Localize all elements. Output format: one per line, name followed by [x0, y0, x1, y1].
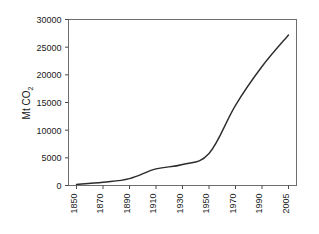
co2-emissions-line-chart: 050001000015000200002500030000 185018701…: [0, 0, 319, 234]
y-axis-tick-label: 5000: [41, 153, 61, 163]
y-axis-tick-label: 30000: [36, 15, 61, 25]
x-axis-tick-label: 2005: [281, 194, 291, 214]
x-axis-label-group: 185018701890191019301950197019902005: [69, 194, 291, 214]
x-axis-tick-label: 1950: [201, 194, 211, 214]
x-axis-tick-label: 1870: [95, 194, 105, 214]
y-axis-tick-label: 20000: [36, 70, 61, 80]
x-axis-tick-label: 1990: [254, 194, 264, 214]
x-axis-tick-label: 1890: [122, 194, 132, 214]
y-axis-tick-label: 15000: [36, 98, 61, 108]
y-axis-tick-label: 10000: [36, 126, 61, 136]
plot-area-frame: [69, 20, 297, 186]
y-axis-tick-label: 0: [56, 181, 61, 191]
y-axis-tick-label: 25000: [36, 43, 61, 53]
y-axis-title-subscript: 2: [27, 87, 34, 91]
x-axis-tick-label: 1970: [228, 194, 238, 214]
x-axis-tick-label: 1930: [175, 194, 185, 214]
y-axis-title-text: Mt CO: [21, 90, 32, 119]
x-axis-tick-label: 1850: [69, 194, 79, 214]
x-axis-tick-label: 1910: [148, 194, 158, 214]
chart-figure: 050001000015000200002500030000 185018701…: [0, 0, 319, 234]
